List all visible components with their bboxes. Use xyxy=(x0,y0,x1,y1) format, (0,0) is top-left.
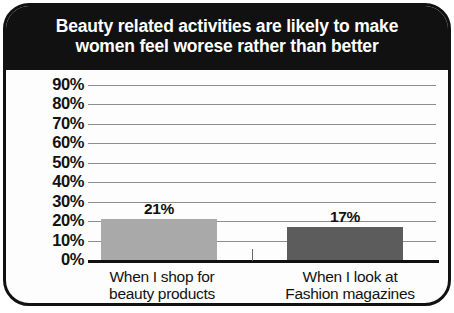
chart-title-line-2: women feel worese rather than better xyxy=(75,36,378,56)
x-axis-category-label: When I shop forbeauty products xyxy=(82,269,242,302)
x-axis-category-label: When I look atFashion magazines xyxy=(264,269,436,302)
category-label-line-1: When I look at xyxy=(303,268,398,285)
bar-value-label: 21% xyxy=(101,200,217,218)
bar[interactable] xyxy=(287,227,403,260)
bar-value-label: 17% xyxy=(287,208,403,226)
plot-area: 0%10%20%30%40%50%60%70%80%90% 21%17% Whe… xyxy=(6,73,451,306)
x-axis-category-labels: When I shop forbeauty productsWhen I loo… xyxy=(6,263,451,306)
chart-title-banner: Beauty related activities are likely to … xyxy=(3,3,451,70)
category-label-line-2: Fashion magazines xyxy=(264,286,436,303)
bars-layer: 21%17% xyxy=(6,73,451,260)
category-label-line-1: When I shop for xyxy=(110,268,215,285)
chart-title: Beauty related activities are likely to … xyxy=(56,17,398,56)
chart-frame: Beauty related activities are likely to … xyxy=(3,3,451,306)
bar[interactable] xyxy=(101,219,217,260)
category-label-line-2: beauty products xyxy=(82,286,242,303)
chart-title-line-1: Beauty related activities are likely to … xyxy=(56,16,398,36)
